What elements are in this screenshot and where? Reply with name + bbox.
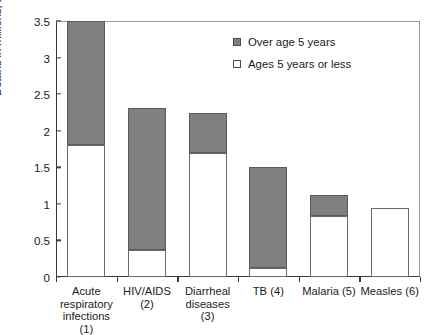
bar-1 xyxy=(67,21,105,277)
bar-3 xyxy=(189,113,227,277)
bar-segment-over-age-5 xyxy=(128,108,166,250)
x-axis-tick-mark xyxy=(56,277,57,282)
legend-swatch-over-age-5-icon xyxy=(233,38,241,46)
y-axis-tick-label: 2 xyxy=(0,124,56,137)
x-axis-label-line: Acute xyxy=(56,285,117,298)
bar-segment-ages-5-or-less xyxy=(189,153,227,277)
x-axis-label-line: Diarrheal xyxy=(177,285,238,298)
x-axis-tick-mark xyxy=(238,277,239,282)
bar-segment-ages-5-or-less xyxy=(249,268,287,277)
x-axis-label-5: Malaria (5) xyxy=(299,285,360,298)
y-axis-tick-label: 1 xyxy=(0,197,56,210)
y-axis-tick-label: 2.5 xyxy=(0,88,56,101)
chart-legend: Over age 5 years Ages 5 years or less xyxy=(233,36,351,80)
bar-6 xyxy=(371,208,409,277)
legend-swatch-ages-5-or-less-icon xyxy=(233,60,241,68)
x-axis-tick-mark xyxy=(117,277,118,282)
legend-item-over-age-5: Over age 5 years xyxy=(233,36,351,48)
legend-item-ages-5-or-less: Ages 5 years or less xyxy=(233,58,351,70)
x-axis-label-2: HIV/AIDS (2) xyxy=(117,285,178,310)
legend-label-ages-5-or-less: Ages 5 years or less xyxy=(248,58,351,70)
x-axis-label-line: infections (1) xyxy=(56,310,117,335)
bar-4 xyxy=(249,167,287,277)
bar-segment-ages-5-or-less xyxy=(371,208,409,277)
bar-segment-ages-5-or-less xyxy=(67,145,105,277)
bar-segment-ages-5-or-less xyxy=(128,250,166,277)
x-axis-label-6: Measles (6) xyxy=(359,285,420,298)
y-axis-tick-label: 0 xyxy=(0,271,56,284)
x-axis-tick-mark xyxy=(420,277,421,282)
x-axis-label-line: diseases (3) xyxy=(177,298,238,323)
x-axis-label-line: HIV/AIDS (2) xyxy=(117,285,178,310)
x-axis-tick-mark xyxy=(359,277,360,282)
y-axis-tick-label: 3.5 xyxy=(0,15,56,28)
x-axis-label-line: TB (4) xyxy=(238,285,299,298)
x-axis-label-4: TB (4) xyxy=(238,285,299,298)
x-axis-label-line: Malaria (5) xyxy=(299,285,360,298)
bar-segment-over-age-5 xyxy=(310,195,348,216)
bar-segment-over-age-5 xyxy=(249,167,287,268)
x-axis-label-1: Acuterespiratoryinfections (1) xyxy=(56,285,117,335)
y-axis-tick-label: 3 xyxy=(0,51,56,64)
y-axis-tick-label: 0.5 xyxy=(0,234,56,247)
legend-label-over-age-5: Over age 5 years xyxy=(248,36,335,48)
bar-segment-over-age-5 xyxy=(67,21,105,145)
bar-segment-ages-5-or-less xyxy=(310,216,348,277)
bar-2 xyxy=(128,108,166,277)
bar-segment-over-age-5 xyxy=(189,113,227,152)
x-axis-tick-mark xyxy=(177,277,178,282)
y-axis-tick-label: 1.5 xyxy=(0,161,56,174)
bar-5 xyxy=(310,195,348,277)
x-axis-label-line: Measles (6) xyxy=(359,285,420,298)
x-axis-label-3: Diarrhealdiseases (3) xyxy=(177,285,238,323)
x-axis-tick-mark xyxy=(299,277,300,282)
x-axis-label-line: respiratory xyxy=(56,298,117,311)
